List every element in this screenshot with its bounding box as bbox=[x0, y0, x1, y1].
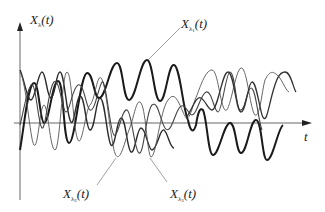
leader-line-x2 bbox=[97, 158, 116, 185]
x-axis-label: t bbox=[304, 130, 308, 143]
y-axis-label-main: X bbox=[30, 12, 38, 27]
curve-label-x2-main: X bbox=[63, 186, 71, 201]
y-axis-label: Xλ(t) bbox=[30, 13, 54, 29]
random-process-diagram bbox=[0, 0, 325, 212]
curve-label-x1: Xλ1(t) bbox=[181, 17, 207, 33]
curve-label-x1-arg: (t) bbox=[195, 16, 207, 31]
x-axis-arrow-icon bbox=[302, 120, 312, 126]
curve-thick-lower bbox=[188, 109, 283, 160]
curve-label-x3: Xλ3(t) bbox=[170, 187, 196, 203]
y-axis-label-arg: (t) bbox=[41, 12, 53, 27]
y-axis-arrow-icon bbox=[17, 22, 23, 31]
curve-label-x2: Xλ2(t) bbox=[63, 187, 89, 203]
leader-line-x1 bbox=[148, 28, 180, 60]
curve-label-x2-arg: (t) bbox=[77, 186, 89, 201]
curve-label-x3-main: X bbox=[170, 186, 178, 201]
x-axis-label-text: t bbox=[304, 129, 308, 144]
leader-line-x3 bbox=[150, 158, 167, 182]
curve-label-x1-main: X bbox=[181, 16, 189, 31]
curve-label-x3-arg: (t) bbox=[184, 186, 196, 201]
